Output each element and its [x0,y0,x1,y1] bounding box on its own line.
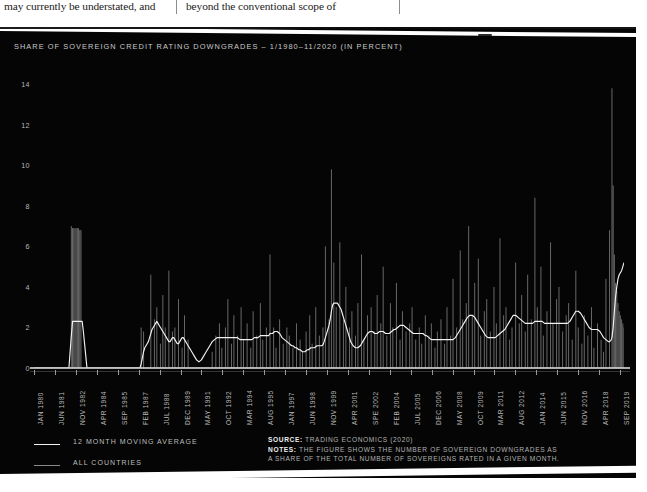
y-axis-tick-4: 4 [8,283,30,292]
x-axis-tick-mark [327,370,328,375]
x-axis-tick-mark [494,370,495,375]
y-axis-tick-10: 10 [8,161,30,170]
x-axis-label-nov-1982: NOV 1982 [79,390,86,425]
x-axis-tick-mark [599,370,600,375]
x-axis-label-feb-2004: FEB 2004 [393,392,400,425]
x-axis-label-apr-1984: APR 1984 [100,391,107,425]
x-axis-tick-mark [285,370,286,375]
x-axis-label-apr-2001: APR 2001 [351,391,358,425]
scan-artifact-mark [478,34,492,36]
panel-top-edge [0,27,637,37]
x-axis-tick-mark [474,370,475,375]
x-axis-tick-mark [118,370,119,375]
x-axis-label-may-1991: MAY 1991 [204,391,211,425]
notes-text-1: THE FIGURE SHOWS THE NUMBER OF SOVEREIGN… [299,446,557,453]
x-axis-line [30,367,630,369]
x-axis-label-jun-1981: JUN 1981 [58,392,65,425]
x-axis-tick-mark [390,370,391,375]
x-axis-label-mar-2011: MAR 2011 [497,390,504,425]
legend-label-all-countries: ALL COUNTRIES [73,459,142,466]
x-axis-tick-mark [97,370,98,375]
figure-title: SHARE OF SOVEREIGN CREDIT RATING DOWNGRA… [14,42,403,51]
x-axis-tick-mark [536,370,537,375]
x-axis-label-dec-1989: DEC 1989 [184,391,191,425]
y-axis-tick-6: 6 [8,242,30,251]
x-axis-label-nov-2016: NOV 2016 [581,390,588,425]
document-right-column-text: beyond the conventional scope of [186,0,336,12]
column-divider-right [399,0,400,14]
figure-panel: SHARE OF SOVEREIGN CREDIT RATING DOWNGRA… [0,27,637,478]
y-axis-tick-8: 8 [8,202,30,211]
x-axis-tick-mark [139,370,140,375]
x-axis-tick-mark [160,370,161,375]
source-line: SOURCE: TRADING ECONOMICS (2020) [268,435,560,445]
x-axis-tick-mark [181,370,182,375]
x-axis-label-apr-2018: APR 2018 [602,391,609,425]
document-left-column-text: may currently be understated, and [4,0,155,12]
x-axis-tick-mark [306,370,307,375]
x-axis-tick-mark [369,370,370,375]
legend-swatch-all-countries [34,465,60,466]
x-axis-tick-mark [76,370,77,375]
x-axis-label-mar-1994: MAR 1994 [246,390,253,425]
x-axis-tick-mark [578,370,579,375]
notes-line-2: A SHARE OF THE TOTAL NUMBER OF SOVEREIGN… [268,454,560,464]
x-axis-label-oct-2009: OCT 2009 [477,391,484,425]
x-axis-label-aug-1995: AUG 1995 [267,390,274,425]
x-axis-tick-mark [432,370,433,375]
x-axis-label-jan-1980: JAN 1980 [37,392,44,425]
document-text-strip: may currently be understated, and beyond… [0,0,647,26]
column-divider-left [176,0,177,14]
notes-line-1: NOTES: THE FIGURE SHOWS THE NUMBER OF SO… [268,445,560,455]
x-axis-tick-mark [620,370,621,375]
x-axis-label-jun-1998: JUN 1998 [309,392,316,425]
legend-swatch-moving-average [34,444,60,445]
notes-label: NOTES: [268,446,297,453]
source-value: TRADING ECONOMICS (2020) [305,436,413,443]
source-label: SOURCE: [268,436,303,443]
x-axis-tick-mark [34,370,35,375]
y-axis-tick-2: 2 [8,323,30,332]
x-axis-label-sep-1985: SEP 1985 [121,391,128,425]
x-axis-label-jan-1997: JAN 1997 [288,392,295,425]
x-axis-label-dec-2006: DEC 2006 [435,391,442,425]
panel-bottom-edge [0,465,637,478]
x-axis-label-sep-2019: SEP 2019 [623,391,630,425]
x-axis-tick-mark [453,370,454,375]
plot-area [34,68,624,368]
x-axis-label-nov-1999: NOV 1999 [330,390,337,425]
y-axis-tick-12: 12 [8,121,30,130]
x-axis-label-may-2008: MAY 2008 [456,391,463,425]
x-axis-ticks [34,370,630,376]
y-axis-tick-14: 14 [8,80,30,89]
y-axis-tick-0: 0 [8,364,30,373]
x-axis-tick-labels: JAN 1980JUN 1981NOV 1982APR 1984SEP 1985… [34,377,634,435]
x-axis-label-feb-1987: FEB 1987 [142,392,149,425]
page-right-margin [636,27,647,478]
x-axis-tick-mark [515,370,516,375]
x-axis-tick-mark [557,370,558,375]
x-axis-label-aug-2012: AUG 2012 [518,390,525,425]
x-axis-tick-mark [243,370,244,375]
x-axis-tick-mark [411,370,412,375]
x-axis-tick-mark [55,370,56,375]
x-axis-label-jul-1988: JUL 1988 [163,393,170,425]
source-and-notes: SOURCE: TRADING ECONOMICS (2020) NOTES: … [268,435,560,464]
x-axis-label-oct-1992: OCT 1992 [225,391,232,425]
x-axis-tick-mark [348,370,349,375]
chart-svg [34,68,624,368]
x-axis-tick-mark [264,370,265,375]
x-axis-tick-mark [201,370,202,375]
legend-label-moving-average: 12 MONTH MOVING AVERAGE [73,438,198,445]
x-axis-label-spe-2002: SPE 2002 [372,391,379,425]
x-axis-label-jan-2014: JAN 2014 [539,392,546,425]
x-axis-tick-mark [222,370,223,375]
x-axis-label-jul-2005: JUL 2005 [414,393,421,425]
x-axis-label-jun-2015: JUN 2015 [560,392,567,425]
